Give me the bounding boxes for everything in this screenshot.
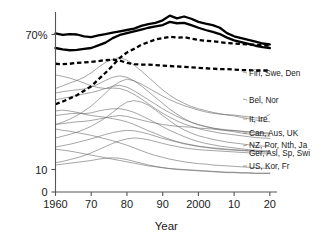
series-label-it-ire: It, Ire [249,115,268,124]
y-tick-label-1: 10 [35,164,47,176]
emphasized-series-group [56,16,270,105]
x-tick-label-5: 10 [228,198,240,210]
label-leader-line [243,145,247,146]
x-tick-label-4: 2000 [186,198,210,210]
series-line-16 [56,75,270,138]
series-line-7 [56,116,270,134]
series-label-bel-nor: Bel, Nor [249,96,279,105]
chart-svg: 196070809020001020 70%100 Fin, Swe, DenB… [0,0,322,242]
series-label-ger-asl-sp-swi: Ger, Asl, Sp, Swi [249,149,310,158]
y-tick-label-0: 70% [25,29,47,41]
series-line-12 [56,129,270,169]
x-tick-label-1: 70 [85,198,97,210]
series-line-4 [56,79,270,124]
x-tick-label-6: 20 [264,198,276,210]
series-line-3 [56,60,270,71]
series-label-us-kor-fr: US, Kor, Fr [249,162,290,171]
union-density-line-chart: 196070809020001020 70%100 Fin, Swe, DenB… [0,0,322,242]
label-leader-line [243,99,247,100]
y-tick-label-2: 0 [41,186,47,198]
x-tick-group: 196070809020001020 [43,192,276,210]
series-line-5 [56,57,270,121]
series-label-fin-swe-den: Fin, Swe, Den [249,69,301,78]
x-tick-label-2: 80 [121,198,133,210]
series-label-can-aus-uk: Can, Aus, UK [249,129,299,138]
label-leader-line [243,72,247,73]
x-axis-title: Year [155,220,178,232]
thin-series-group [56,57,270,173]
y-tick-group: 70%100 [25,29,55,199]
series-line-14 [56,158,270,174]
series-line-17 [56,85,270,136]
x-tick-label-3: 90 [157,198,169,210]
series-label-group: Fin, Swe, DenBel, NorIt, IreCan, Aus, UK… [243,69,310,171]
x-tick-label-0: 1960 [43,198,67,210]
series-line-10 [56,130,270,152]
